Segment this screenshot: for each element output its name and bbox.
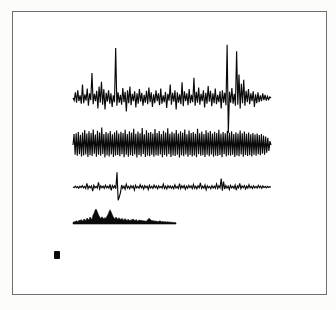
solid-square-marker [54, 251, 60, 259]
figure-root: Scanned figure showing four stacked hori… [0, 0, 336, 310]
